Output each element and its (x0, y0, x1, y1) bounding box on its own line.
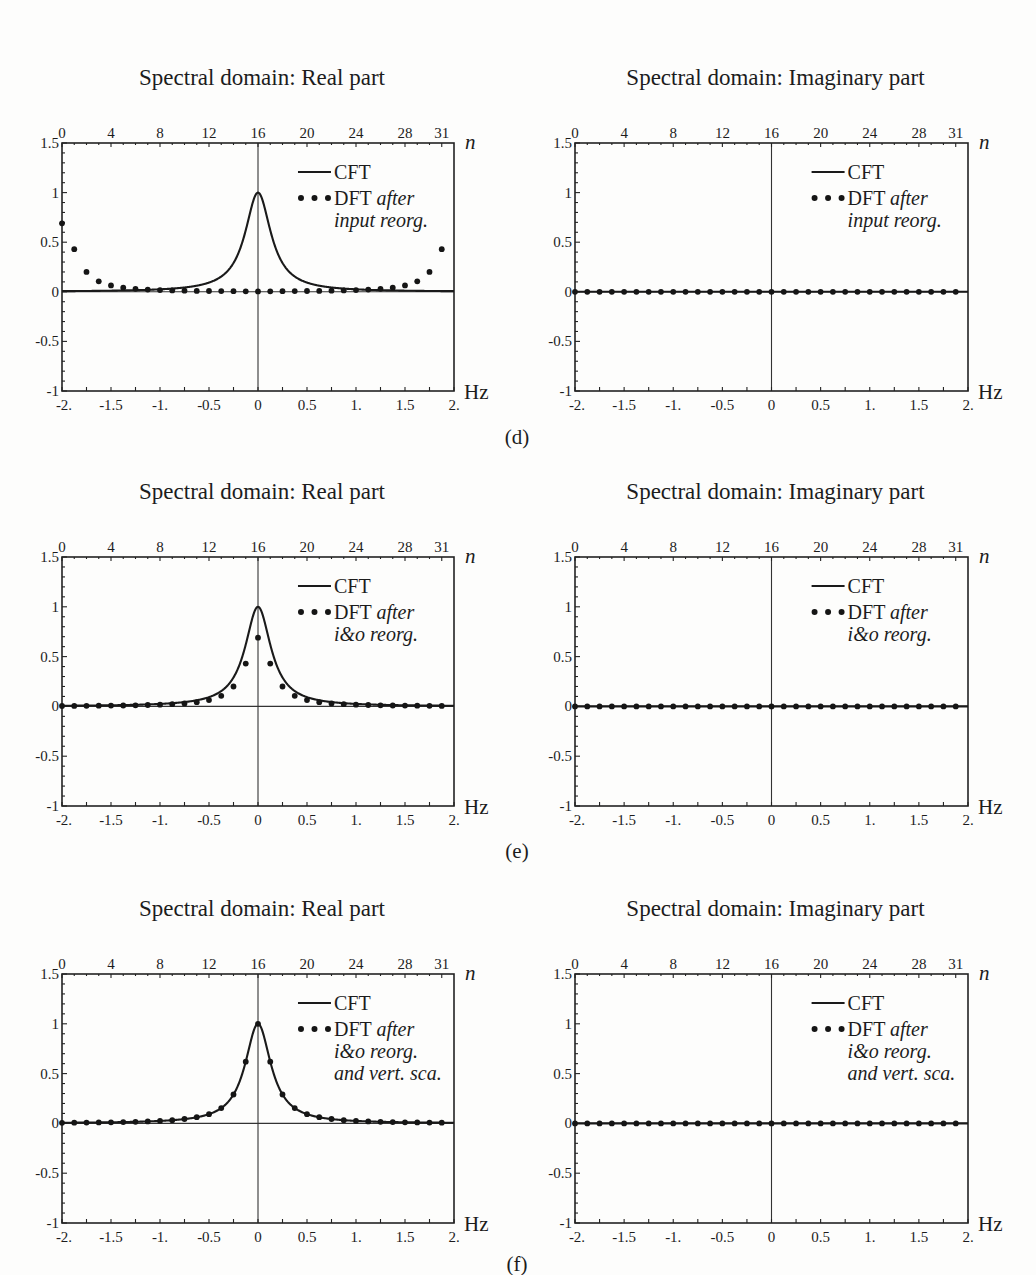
x-tick-label: -2. (569, 397, 585, 413)
dft-point (304, 697, 310, 703)
n-tick-label: 31 (948, 956, 963, 972)
dft-point (71, 246, 77, 252)
dft-point (867, 289, 873, 295)
n-tick-label: 8 (670, 956, 678, 972)
dft-point (267, 288, 273, 294)
dft-point (891, 1121, 897, 1127)
x-tick-label: 0.5 (298, 1229, 317, 1245)
dft-point (427, 1120, 433, 1126)
x-tick-label: 2. (448, 812, 459, 828)
dft-point (169, 701, 175, 707)
dft-point (439, 246, 445, 252)
x-tick-label: 0 (254, 1229, 262, 1245)
y-tick-label: 0.5 (40, 234, 59, 250)
n-tick-label: 24 (862, 539, 878, 555)
n-tick-label: 12 (202, 956, 217, 972)
dft-point (157, 287, 163, 293)
dft-point (793, 704, 799, 710)
n-tick-label: 28 (398, 539, 413, 555)
y-tick-label: 1.5 (553, 135, 572, 151)
dft-point (830, 704, 836, 710)
dft-point (304, 1111, 310, 1117)
dft-point (255, 289, 261, 295)
dft-point (732, 1121, 738, 1127)
x-tick-label: 1.5 (396, 397, 415, 413)
y-tick-label: 1 (52, 599, 60, 615)
n-tick-label: 0 (571, 956, 579, 972)
dft-point (634, 704, 640, 710)
dft-point (842, 289, 848, 295)
dft-point (584, 289, 590, 295)
n-tick-label: 4 (107, 956, 115, 972)
n-tick-label: 24 (349, 956, 365, 972)
dft-point (402, 283, 408, 289)
dft-point (378, 286, 384, 292)
plot-panel-f-left: Spectral domain: Real part1.510.50-0.5-1… (35, 896, 488, 1245)
legend-cft-label: CFT (848, 161, 885, 183)
legend-dot-swatch (812, 1026, 818, 1032)
dft-point (621, 1121, 627, 1127)
dft-point (621, 289, 627, 295)
x-tick-label: -1.5 (612, 397, 636, 413)
n-axis-label: n (465, 130, 476, 154)
legend-dft-note: input reorg. (334, 209, 428, 232)
x-tick-label: 0 (768, 812, 776, 828)
dft-point (439, 1120, 445, 1126)
dft-point (108, 1119, 114, 1125)
n-tick-label: 0 (58, 956, 66, 972)
dft-point (96, 1120, 102, 1126)
dft-point (378, 702, 384, 708)
x-axis-label: Hz (464, 795, 489, 819)
dft-point (597, 704, 603, 710)
y-tick-label: 1.5 (553, 966, 572, 982)
dft-point (120, 285, 126, 291)
n-tick-label: 28 (911, 956, 926, 972)
dft-point (194, 288, 200, 294)
n-tick-label: 31 (434, 539, 449, 555)
dft-point (670, 289, 676, 295)
legend-dot-swatch (812, 609, 818, 615)
dft-point (378, 1119, 384, 1125)
n-tick-label: 20 (813, 539, 828, 555)
n-tick-label: 16 (764, 539, 780, 555)
legend-dft-label: DFT after (848, 601, 928, 624)
dft-point (84, 703, 90, 709)
x-tick-label: 2. (448, 397, 459, 413)
dft-point (683, 289, 689, 295)
n-tick-label: 12 (715, 125, 730, 141)
x-tick-label: 1.5 (910, 1229, 929, 1245)
n-tick-label: 24 (862, 125, 878, 141)
x-tick-label: -1.5 (99, 397, 123, 413)
dft-point (572, 289, 578, 295)
y-tick-label: 0 (565, 698, 573, 714)
dft-point (818, 704, 824, 710)
x-tick-label: -2. (569, 1229, 585, 1245)
dft-point (818, 1121, 824, 1127)
dft-point (316, 288, 322, 294)
y-tick-label: 0 (52, 698, 60, 714)
dft-point (145, 702, 151, 708)
plot-title: Spectral domain: Imaginary part (626, 65, 925, 90)
dft-point (316, 699, 322, 705)
legend-dft-label: DFT after (848, 1018, 928, 1041)
dft-point (928, 704, 934, 710)
x-tick-label: 0 (254, 812, 262, 828)
dft-point (572, 704, 578, 710)
dft-point (120, 703, 126, 709)
n-axis-label: n (465, 961, 476, 985)
plot-title: Spectral domain: Real part (139, 65, 386, 90)
y-tick-label: -0.5 (548, 333, 572, 349)
legend-dot-swatch (298, 195, 304, 201)
dft-point (658, 289, 664, 295)
dft-point (218, 693, 224, 699)
n-tick-label: 16 (251, 539, 267, 555)
dft-point (646, 1121, 652, 1127)
dft-point (793, 1121, 799, 1127)
dft-point (707, 704, 713, 710)
dft-point (353, 1118, 359, 1124)
x-tick-label: -1. (665, 397, 681, 413)
dft-point (341, 288, 347, 294)
x-tick-label: -0.5 (197, 812, 221, 828)
dft-point (390, 1119, 396, 1125)
dft-point (830, 1121, 836, 1127)
